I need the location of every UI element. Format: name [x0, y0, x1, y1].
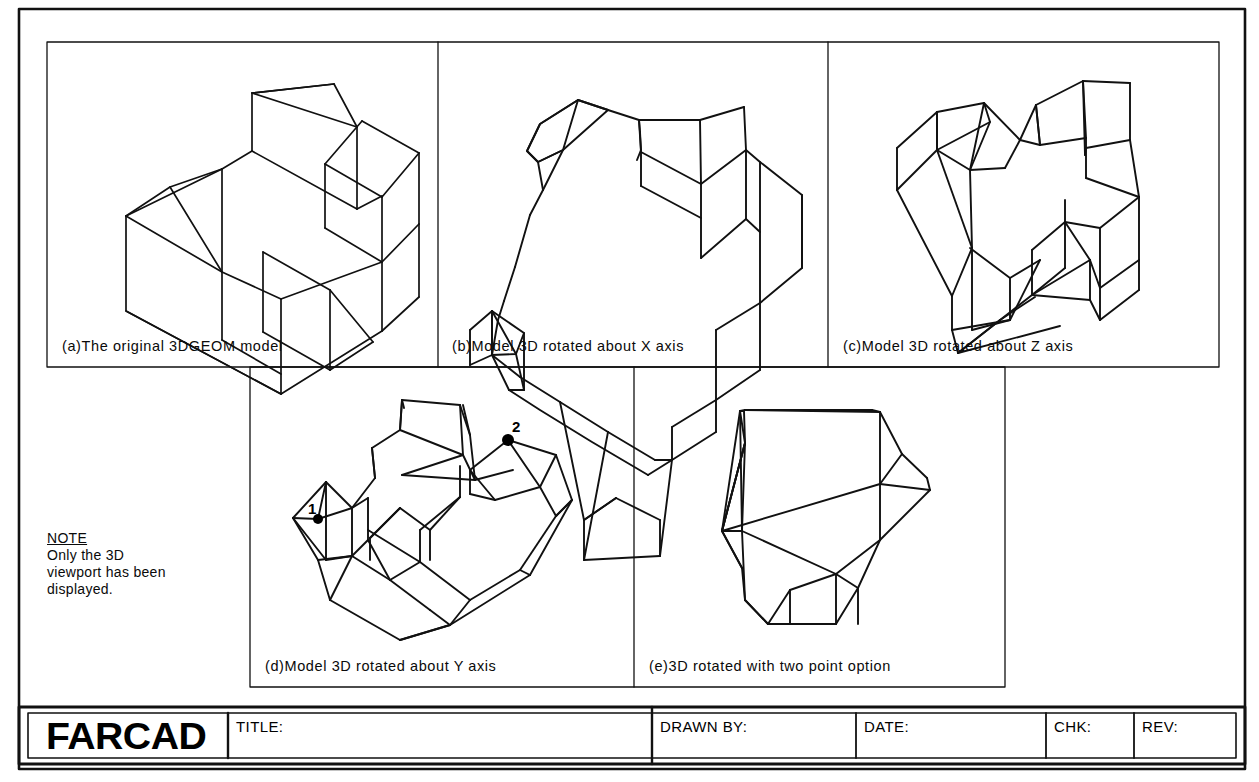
point-label-1: 1: [308, 500, 316, 517]
drawing-sheet: (a)The original 3DGEOM model (b)Model 3D…: [0, 0, 1259, 782]
panel-caption-c: (c)Model 3D rotated about Z axis: [843, 338, 1073, 354]
panel-caption-b: (b)Model 3D rotated about X axis: [452, 338, 684, 354]
panel-caption-a: (a)The original 3DGEOM model: [62, 338, 283, 354]
note-line-1: Only the 3D: [47, 547, 166, 564]
drawing-canvas: [0, 0, 1259, 782]
model-d-rot-y: [293, 400, 572, 640]
note-line-3: displayed.: [47, 581, 166, 598]
titleblock-field-drawnby-label: DRAWN BY:: [660, 718, 747, 735]
titleblock-field-title-label: TITLE:: [236, 718, 283, 735]
note-line-2: viewport has been: [47, 564, 166, 581]
model-b-rot-x: [470, 100, 802, 560]
model-c-rot-z: [897, 81, 1139, 353]
point-marker-2: [502, 434, 514, 446]
panel-caption-e: (e)3D rotated with two point option: [649, 658, 891, 674]
note-block: NOTE Only the 3D viewport has been displ…: [47, 530, 166, 598]
titleblock-field-chk-label: CHK:: [1054, 718, 1091, 735]
brand-logo: FARCAD: [46, 716, 206, 758]
panel-caption-d: (d)Model 3D rotated about Y axis: [265, 658, 496, 674]
titleblock-field-date-label: DATE:: [864, 718, 909, 735]
model-e-two-point: [722, 410, 930, 624]
note-heading: NOTE: [47, 530, 166, 547]
point-label-2: 2: [512, 418, 520, 435]
sheet-outer-border: [19, 9, 1245, 769]
titleblock-field-rev-label: REV:: [1142, 718, 1178, 735]
